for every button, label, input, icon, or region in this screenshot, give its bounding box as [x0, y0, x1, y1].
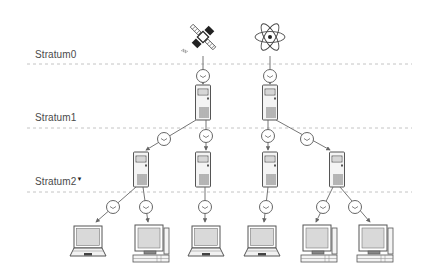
clock-icon [301, 133, 314, 146]
stratum2-server-a [134, 152, 149, 187]
clock-icon [200, 130, 213, 143]
desktop-icon [301, 225, 337, 262]
signal-icon [181, 49, 188, 53]
stratum1-server-a [196, 85, 211, 120]
ntp-diagram [0, 0, 435, 273]
stratum2-server-d [330, 152, 345, 187]
clock-icon [317, 201, 330, 214]
clock-icon [349, 201, 362, 214]
clock-icon [262, 130, 275, 143]
stratum2-server-b [196, 152, 211, 187]
laptop-icon [70, 226, 106, 256]
link-s1a-s2a [146, 120, 196, 150]
satellite-icon [183, 17, 223, 57]
stratum2-server-c [263, 152, 278, 187]
clock-icon [260, 201, 273, 214]
clock-icon [264, 70, 277, 83]
atom-icon [255, 21, 285, 52]
clock-icon [197, 70, 210, 83]
laptop-icon [244, 226, 280, 256]
clock-icon [107, 201, 120, 214]
desktop-icon [133, 225, 169, 262]
clock-icon [158, 133, 171, 146]
stratum1-server-b [263, 85, 278, 120]
clock-icon [199, 201, 212, 214]
desktop-icon [357, 225, 393, 262]
clock-icon [140, 201, 153, 214]
laptop-icon [188, 226, 224, 256]
